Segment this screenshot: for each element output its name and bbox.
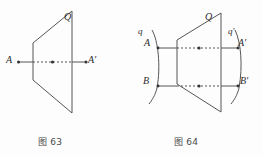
point-a-dot-fig64 (157, 47, 160, 50)
label-curve-q: q (138, 27, 143, 36)
curve-q (149, 30, 159, 104)
label-plane-q-fig63: Q (64, 12, 71, 22)
label-curve-q-prime: q′ (228, 27, 234, 36)
point-mid-lower-dot (197, 84, 200, 87)
point-mid-dot-fig63 (51, 60, 54, 63)
caption-figure-63: 图 63 (38, 135, 62, 148)
plane-q-fig64 (177, 13, 221, 112)
figure-63-group (17, 11, 88, 113)
figure-sheet: A A′ Q q A B q′ A′ B′ Q 图 63 图 64 (0, 0, 263, 156)
point-mid-upper-dot (197, 46, 200, 49)
caption-figure-64: 图 64 (174, 135, 198, 148)
point-a-dot (17, 61, 20, 64)
label-point-a-fig64: A (144, 38, 150, 48)
figures-drawing (0, 0, 263, 156)
label-point-b-fig64: B (143, 76, 149, 86)
label-point-bprime-fig64: B′ (240, 76, 248, 86)
label-point-aprime-fig63: A′ (88, 55, 96, 65)
point-b-dot (157, 85, 160, 88)
label-point-a-fig63: A (6, 55, 12, 65)
label-point-aprime-fig64: A′ (238, 38, 246, 48)
point-bprime-dot (237, 85, 240, 88)
label-plane-q-fig64: Q (205, 12, 212, 22)
